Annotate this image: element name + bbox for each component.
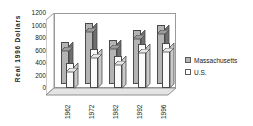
y-tick-label: 800 bbox=[35, 35, 46, 42]
x-tick-label: 1962 bbox=[64, 105, 71, 119]
legend-label-us: U.S. bbox=[194, 69, 207, 76]
bar-top bbox=[90, 45, 98, 49]
x-tick-label: 1996 bbox=[160, 105, 167, 119]
bar-top bbox=[162, 39, 170, 43]
bar-top bbox=[157, 21, 165, 25]
legend-item-us: U.S. bbox=[185, 68, 251, 76]
bar bbox=[114, 56, 122, 88]
y-tick-label: 400 bbox=[35, 60, 46, 67]
bar-top bbox=[66, 59, 74, 63]
legend-label-massachusetts: Massachusetts bbox=[194, 57, 237, 64]
bar-top bbox=[85, 19, 93, 23]
y-tick-label: 1200 bbox=[32, 10, 46, 17]
y-axis-title: Real 1996 Dollars bbox=[14, 9, 21, 89]
y-axis-tick-labels: 020040060080010001200 bbox=[22, 13, 46, 95]
bar-top bbox=[133, 26, 141, 30]
bar-top bbox=[138, 40, 146, 44]
y-tick-label: 200 bbox=[35, 73, 46, 80]
y-tick-label: 1000 bbox=[32, 23, 46, 30]
y-tick-label: 600 bbox=[35, 48, 46, 55]
massachusetts-swatch-icon bbox=[185, 57, 191, 63]
chart-legend: Massachusetts U.S. bbox=[185, 56, 251, 80]
bar-side bbox=[74, 63, 78, 89]
bar bbox=[138, 44, 146, 88]
x-tick-label: 1992 bbox=[136, 105, 143, 119]
bar-top bbox=[114, 52, 122, 56]
legend-item-massachusetts: Massachusetts bbox=[185, 56, 251, 64]
bar-face bbox=[66, 63, 74, 89]
bar bbox=[90, 49, 98, 88]
bar bbox=[162, 43, 170, 88]
bar-top bbox=[109, 36, 117, 40]
x-tick-label: 1972 bbox=[88, 105, 95, 119]
bar-chart: Real 1996 Dollars 020040060080010001200 … bbox=[0, 0, 253, 126]
x-tick-label: 1982 bbox=[112, 105, 119, 119]
bars-layer bbox=[46, 13, 177, 95]
bar bbox=[66, 63, 74, 89]
us-swatch-icon bbox=[185, 69, 191, 75]
bar-top bbox=[61, 38, 69, 42]
x-axis-tick-labels: 19621972198219921996 bbox=[46, 95, 177, 126]
